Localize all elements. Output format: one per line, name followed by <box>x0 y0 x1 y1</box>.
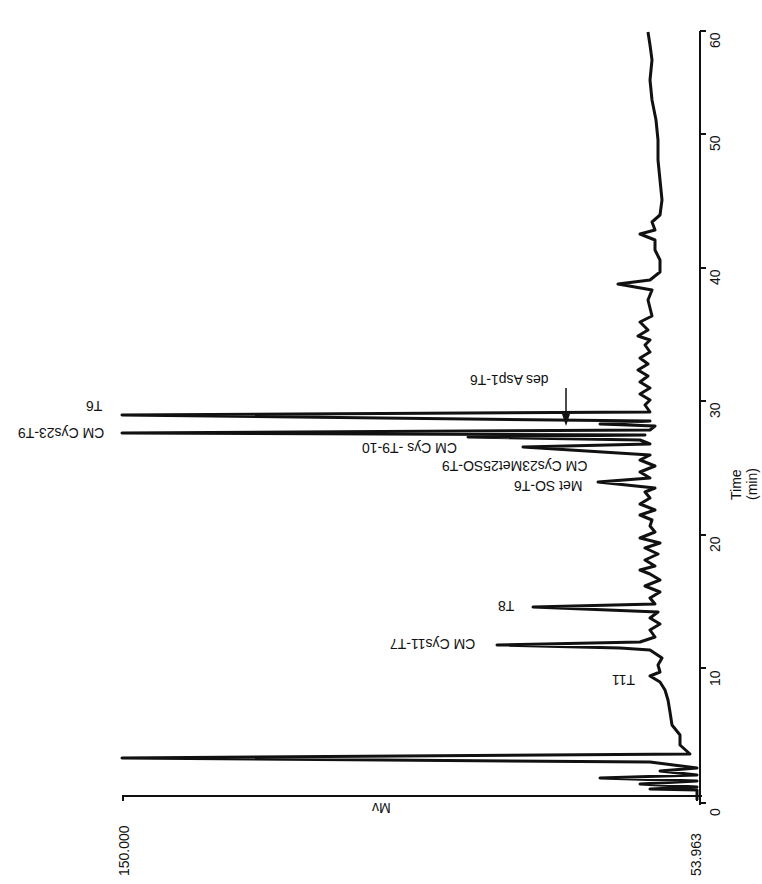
time-tick-0: 0 <box>707 808 723 816</box>
label-t11: T11 <box>612 672 635 688</box>
time-tick-10: 10 <box>707 670 723 686</box>
time-axis-label: Time (min) <box>728 466 760 500</box>
chromatogram-trace <box>122 32 697 800</box>
label-t8: T8 <box>498 598 514 614</box>
label-cm-cys23met25so-t9: CM Cys23Met25SO-T9 <box>442 458 587 474</box>
signal-max-label: 150.000 <box>116 825 132 876</box>
time-tick-20: 20 <box>707 536 723 552</box>
time-tick-60: 60 <box>707 32 723 48</box>
signal-axis-label: Mv <box>372 800 391 816</box>
label-des-asp1-t6: des Asp1-T6 <box>470 372 549 388</box>
time-tick-50: 50 <box>707 135 723 151</box>
time-tick-30: 30 <box>707 402 723 418</box>
time-tick-40: 40 <box>707 269 723 285</box>
label-t6: T6 <box>86 398 102 414</box>
label-cm-cys-t9-10: CM Cys -T9-10 <box>362 440 457 456</box>
label-cm-cys23-t9: CM Cys23-T9 <box>18 425 104 441</box>
label-met-so-t6: Met SO-T6 <box>514 478 582 494</box>
signal-min-label: 53.963 <box>688 833 704 876</box>
label-cm-cys11-t7: CM Cys11-T7 <box>390 636 475 652</box>
